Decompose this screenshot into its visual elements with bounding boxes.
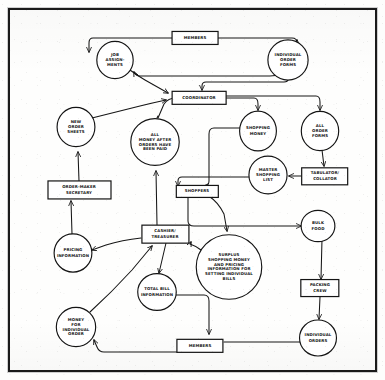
node-order-maker[interactable]: ORDER-MAKERSECRETARY bbox=[48, 181, 111, 199]
edge-all-order-forms-to-tabulator bbox=[322, 150, 324, 166]
node-label: ALL bbox=[316, 123, 325, 128]
node-label: ORDER bbox=[312, 128, 328, 133]
node-indiv-orders[interactable]: INDIVIDUALORDERS bbox=[300, 320, 337, 356]
node-total-bill[interactable]: TOTAL BILLINFORMATION bbox=[138, 274, 177, 311]
node-bulk-food[interactable]: BULKFOOD bbox=[301, 210, 335, 241]
node-layer: MEMBERSJOBASSIGN-MENTSINDIVIDUALORDERFOR… bbox=[48, 31, 348, 356]
node-label: TREASURER bbox=[151, 234, 178, 239]
node-all-forms[interactable]: ALLORDERFORMS bbox=[301, 111, 338, 150]
edge-new-order-sheets-to-coordinator bbox=[92, 100, 166, 118]
node-shoppers[interactable]: SHOPPERS bbox=[176, 185, 218, 197]
node-all-money[interactable]: ALLMONEY AFTERORDERS HAVEBEEN PAID bbox=[131, 119, 179, 166]
node-tabulator[interactable]: TABULATOR/COLLATOR bbox=[302, 168, 348, 185]
node-label: TABULATOR/ bbox=[311, 170, 340, 175]
node-label: SHOPPING bbox=[246, 125, 270, 130]
node-surplus[interactable]: SURPLUSSHOPPING MONEYAND PRICINGINFORMAT… bbox=[196, 235, 262, 300]
edge-coordinator-to-shopping-money bbox=[226, 98, 258, 110]
node-label: BEEN PAID bbox=[143, 146, 168, 151]
node-label: COLLATOR bbox=[313, 176, 337, 181]
node-indiv-forms[interactable]: INDIVIDUALORDERFORMS bbox=[268, 40, 308, 80]
edge-cashier-to-total-bill-information bbox=[159, 243, 166, 273]
node-label: NEW bbox=[71, 119, 82, 124]
flowchart-canvas: MEMBERSJOBASSIGN-MENTSINDIVIDUALORDERFOR… bbox=[0, 0, 385, 380]
node-label: FORMS bbox=[312, 133, 328, 138]
node-label: ORDER bbox=[68, 124, 84, 129]
node-label: ORDER bbox=[68, 331, 84, 336]
node-label: INFORMATION bbox=[141, 292, 173, 297]
node-new-order[interactable]: NEWORDERSHEETS bbox=[57, 107, 95, 146]
node-label: LIST bbox=[263, 177, 273, 182]
node-label: TOTAL BILL bbox=[144, 286, 170, 291]
node-cashier[interactable]: CASHIER/TREASURER bbox=[142, 225, 189, 243]
node-money-indiv[interactable]: MONEYFORINDIVIDUALORDER bbox=[56, 307, 95, 346]
node-label: SECRETARY bbox=[66, 190, 92, 195]
node-label: SHOPPERS bbox=[185, 188, 210, 193]
diagram-page: MEMBERSJOBASSIGN-MENTSINDIVIDUALORDERFOR… bbox=[0, 0, 385, 380]
edge-pricing-information-to-order-maker-secretary bbox=[71, 201, 72, 234]
node-members-bot[interactable]: MEMBERS bbox=[177, 339, 223, 352]
node-label: CASHIER/ bbox=[154, 228, 176, 233]
node-label: CREW bbox=[313, 288, 327, 293]
edge-packing-crew-to-individual-orders bbox=[319, 297, 320, 319]
node-label: INFORMATION bbox=[57, 253, 89, 258]
node-packing-crew[interactable]: PACKINGCREW bbox=[301, 280, 339, 297]
node-label: ORDERS bbox=[309, 338, 328, 343]
node-label: PRICING bbox=[64, 247, 83, 252]
node-label: ASSIGN- bbox=[106, 57, 125, 62]
edge-individual-order-forms-to-job-assignments bbox=[134, 72, 280, 76]
edge-cashier-to-all-money bbox=[156, 171, 157, 225]
node-label: BULK bbox=[312, 220, 325, 225]
node-label: BILLS bbox=[223, 276, 236, 281]
node-label: SHOPPING bbox=[256, 172, 280, 177]
edge-cashier-to-pricing-information bbox=[92, 238, 141, 250]
node-label: ORDER bbox=[280, 57, 296, 62]
edge-bulk-food-to-packing-crew bbox=[321, 239, 322, 279]
node-label: INDIVIDUAL bbox=[305, 332, 332, 337]
edge-members-bottom-to-money-for-individual-order bbox=[94, 340, 177, 352]
node-label: INDIVIDUAL bbox=[275, 52, 302, 57]
node-job-assign[interactable]: JOBASSIGN-MENTS bbox=[97, 41, 133, 78]
edge-total-bill-information-to-members-bottom bbox=[176, 295, 209, 334]
node-label: MEMBERS bbox=[189, 343, 212, 348]
edge-individual-order-forms-to-coordinator bbox=[202, 79, 288, 90]
edge-shoppers-to-bulk-food bbox=[188, 197, 301, 226]
edge-surplus-to-cashier bbox=[190, 242, 201, 250]
node-members-top[interactable]: MEMBERS bbox=[172, 31, 218, 44]
node-label: MEMBERS bbox=[184, 35, 207, 40]
node-coordinator[interactable]: COORDINATOR bbox=[172, 91, 226, 104]
node-label: FORMS bbox=[280, 62, 296, 67]
node-label: COORDINATOR bbox=[182, 95, 215, 100]
node-label: ORDER-MAKER bbox=[62, 184, 96, 189]
edge-order-maker-secretary-to-new-order-sheets bbox=[78, 152, 79, 181]
node-label: JOB bbox=[110, 52, 119, 57]
node-master-list[interactable]: MASTERSHOPPINGLIST bbox=[249, 156, 287, 194]
node-label: FOOD bbox=[312, 226, 326, 231]
node-label: SHEETS bbox=[67, 129, 85, 134]
node-shopping-money[interactable]: SHOPPINGMONEY bbox=[240, 111, 277, 151]
node-label: PACKING bbox=[310, 282, 330, 287]
edge-master-shopping-list-to-shoppers bbox=[178, 177, 249, 186]
node-label: MONEY bbox=[250, 131, 267, 136]
node-label: MASTER bbox=[259, 167, 278, 172]
edge-job-assignments-to-coordinator bbox=[130, 70, 168, 93]
node-pricing-info[interactable]: PRICINGINFORMATION bbox=[54, 234, 92, 272]
node-label: MENTS bbox=[107, 62, 123, 67]
